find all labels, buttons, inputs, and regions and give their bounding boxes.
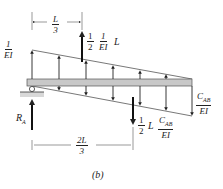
upward-load-arrows [32, 52, 166, 79]
upper-load-line [32, 50, 192, 79]
downward-load-arrows [59, 86, 192, 114]
conjugate-beam-diagram [0, 0, 223, 189]
beam [27, 79, 192, 86]
support-base [20, 92, 44, 97]
right-load-label: CAB EI [196, 92, 211, 116]
figure-caption: (b) [92, 170, 104, 180]
roller-support [29, 86, 34, 91]
bottom-dimension-label: 2L 3 [76, 136, 88, 156]
lower-load-line [32, 86, 192, 116]
reaction-label: RA [16, 113, 26, 127]
left-load-label: 1 EI [4, 40, 13, 60]
top-dimension-label: L 3 [52, 15, 59, 35]
